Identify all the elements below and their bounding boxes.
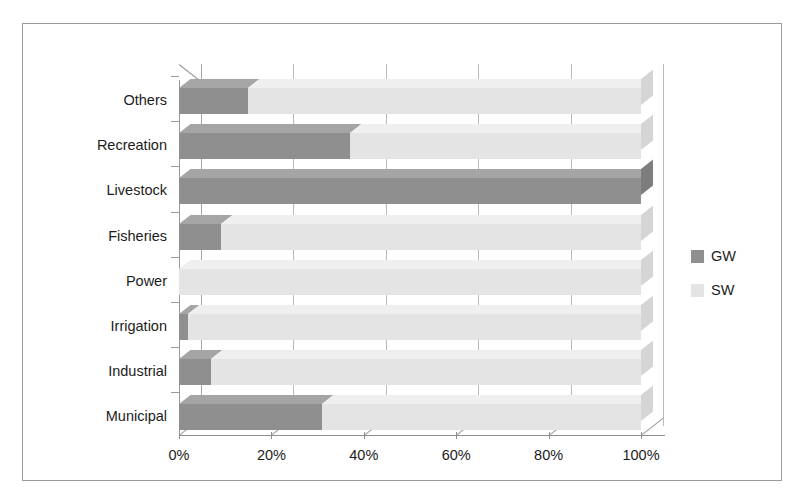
legend: GWSW: [691, 239, 775, 307]
plot-area: 0%20%40%60%80%100%OthersRecreationLivest…: [23, 24, 781, 480]
bar-segment-face: [188, 314, 641, 340]
bar-segment-end-cap: [641, 115, 653, 150]
bar-others[interactable]: [23, 88, 781, 114]
bar-segment-recreation-gw[interactable]: [179, 133, 350, 159]
chart-frame: 0%20%40%60%80%100%OthersRecreationLivest…: [22, 23, 782, 481]
bar-segment-others-gw[interactable]: [179, 88, 248, 114]
x-axis-label-60%: 60%: [421, 447, 491, 463]
x-tick-40%: [364, 432, 365, 439]
legend-label-sw: SW: [711, 282, 734, 298]
legend-item-sw[interactable]: SW: [691, 273, 775, 307]
bar-municipal[interactable]: [23, 404, 781, 430]
bar-segment-top-face: [350, 124, 653, 133]
bar-segment-top-face: [322, 395, 652, 404]
category-tick-livestock: [171, 166, 179, 167]
legend-label-gw: GW: [711, 248, 736, 264]
x-axis-label-40%: 40%: [329, 447, 399, 463]
bar-livestock[interactable]: [23, 178, 781, 204]
bar-segment-top-face: [179, 395, 334, 404]
category-tick-municipal: [171, 392, 179, 393]
bar-segment-recreation-sw[interactable]: [350, 133, 641, 159]
bar-segment-face: [211, 359, 641, 385]
value-axis-line: [179, 435, 665, 436]
bar-segment-top-face: [221, 215, 653, 224]
bar-segment-top-face: [179, 260, 653, 269]
x-axis-label-0%: 0%: [144, 447, 214, 463]
bar-segment-industrial-gw[interactable]: [179, 359, 211, 385]
x-tick-20%: [271, 432, 272, 439]
category-tick-power: [171, 257, 179, 258]
bar-segment-face: [248, 88, 641, 114]
bar-segment-fisheries-sw[interactable]: [221, 224, 641, 250]
bar-segment-end-cap: [641, 160, 653, 195]
bar-segment-face: [350, 133, 641, 159]
x-tick-0%: [179, 432, 180, 439]
bar-segment-face: [179, 224, 221, 250]
x-tick-60%: [456, 432, 457, 439]
bar-segment-fisheries-gw[interactable]: [179, 224, 221, 250]
bar-segment-power-sw[interactable]: [179, 269, 641, 295]
category-tick-irrigation: [171, 302, 179, 303]
bar-segment-end-cap: [641, 70, 653, 105]
category-tick-recreation: [171, 121, 179, 122]
x-tick-80%: [549, 432, 550, 439]
bar-segment-top-face: [188, 305, 652, 314]
legend-swatch-icon-sw: [691, 284, 704, 297]
bar-segment-face: [221, 224, 641, 250]
bar-segment-face: [179, 269, 641, 295]
legend-item-gw[interactable]: GW: [691, 239, 775, 273]
bar-segment-face: [179, 404, 322, 430]
x-axis-label-20%: 20%: [236, 447, 306, 463]
bar-segment-livestock-gw[interactable]: [179, 178, 641, 204]
bar-segment-municipal-gw[interactable]: [179, 404, 322, 430]
bar-segment-others-sw[interactable]: [248, 88, 641, 114]
bar-segment-industrial-sw[interactable]: [211, 359, 641, 385]
bar-segment-municipal-sw[interactable]: [322, 404, 641, 430]
bar-segment-irrigation-gw[interactable]: [179, 314, 188, 340]
x-tick-100%: [641, 432, 642, 439]
category-tick-industrial: [171, 347, 179, 348]
bar-segment-end-cap: [641, 205, 653, 240]
bar-fisheries[interactable]: [23, 224, 781, 250]
bar-industrial[interactable]: [23, 359, 781, 385]
bar-segment-irrigation-sw[interactable]: [188, 314, 641, 340]
bar-segment-face: [179, 178, 641, 204]
legend-swatch-icon-gw: [691, 250, 704, 263]
bar-segment-face: [179, 133, 350, 159]
x-axis-label-100%: 100%: [606, 447, 676, 463]
bar-segment-top-face: [179, 169, 653, 178]
bar-recreation[interactable]: [23, 133, 781, 159]
bar-irrigation[interactable]: [23, 314, 781, 340]
bar-segment-face: [179, 314, 188, 340]
bar-segment-top-face: [248, 79, 652, 88]
bar-segment-top-face: [179, 124, 361, 133]
bar-segment-end-cap: [641, 296, 653, 331]
bar-segment-face: [179, 88, 248, 114]
category-tick-others: [171, 76, 179, 77]
bar-segment-top-face: [211, 350, 652, 359]
x-axis-label-80%: 80%: [514, 447, 584, 463]
bar-segment-end-cap: [641, 341, 653, 376]
bar-segment-face: [179, 359, 211, 385]
bar-segment-end-cap: [641, 386, 653, 421]
bar-power[interactable]: [23, 269, 781, 295]
bar-segment-end-cap: [641, 250, 653, 285]
category-tick-fisheries: [171, 212, 179, 213]
bar-segment-face: [322, 404, 641, 430]
